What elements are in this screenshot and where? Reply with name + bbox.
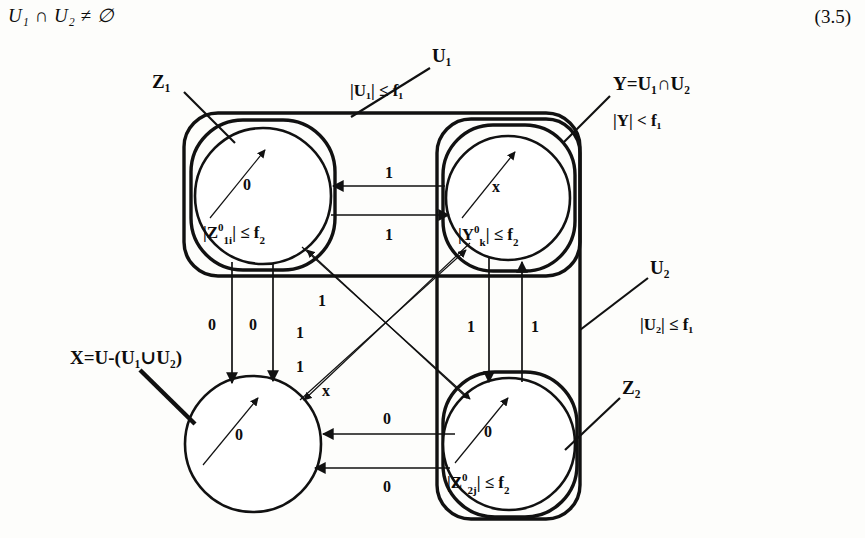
group-constraint-u2: |U₂| ≤ f₁ [640,315,693,334]
leader-line-y [563,96,610,143]
self-arrow-label-x: 0 [235,426,243,443]
edge-label-diag-1: 1 [318,292,326,309]
edge-label-z1-to-x-b: 0 [249,316,257,333]
node-z1-suffix: | ≤ f [232,223,260,242]
edge-label-y-to-z2: 1 [467,318,475,335]
edge-label-y-to-z1: 1 [385,164,393,181]
node-z2-sub: 2j [468,484,477,496]
self-arrow-label-z2: 0 [484,423,492,440]
edge-label-z1-to-x-a: 0 [208,316,216,333]
node-z2-suffix: | ≤ f [477,473,505,492]
edge-label-z2-to-x-a: 0 [383,410,391,427]
edge-label-diag-2: 1 [296,324,304,341]
group-label-u1: U₁ [432,45,451,66]
edge-label-diag-3: 1 [296,358,304,375]
node-z1-sub: 1i [224,234,233,246]
state-transition-diagram: 0 x 0 0 |Z01i| ≤ f2 |Y0k| ≤ f2 |Z02j [0,0,865,538]
self-arrow-label-y: x [492,178,500,195]
group-label-y: Y=U₁∩U₂ [613,73,690,94]
node-y-sup: 0 [474,223,480,235]
node-y-suffix-sub: 2 [513,236,519,248]
node-z1-suffix-sub: 2 [259,234,265,246]
node-z1-prefix: |Z [203,223,218,242]
node-z2-sup: 0 [462,471,468,483]
edge-label-z1-to-y: 1 [385,226,393,243]
leader-line-x [140,370,195,424]
group-label-z1: Z₁ [152,71,170,92]
leader-line-u2 [580,278,648,330]
node-z2-prefix: |Z [447,473,462,492]
group-label-z2: Z₂ [622,377,641,398]
node-y-prefix: |Y [458,225,474,244]
figure-page: U₁ ∩ U₂ ≠ ∅ (3.5) 0 [0,0,865,538]
edge-label-z2-to-y: 1 [531,318,539,335]
node-z1-sup: 0 [218,221,224,233]
node-circle-x[interactable] [185,376,321,512]
edge-label-z2-to-x-b: 0 [383,478,391,495]
group-constraint-u1: |U₁| ≤ f₁ [350,81,403,100]
group-label-x: X=U-(U₁∪U₂) [70,347,182,369]
edge-label-diag-x: x [322,382,330,399]
node-z2-suffix-sub: 2 [504,484,510,496]
node-y-suffix: | ≤ f [486,225,514,244]
leader-line-z1 [184,92,235,143]
group-constraint-y: |Y| < f₁ [613,111,662,130]
group-label-u2: U₂ [650,257,670,278]
self-arrow-label-z1: 0 [243,176,251,193]
